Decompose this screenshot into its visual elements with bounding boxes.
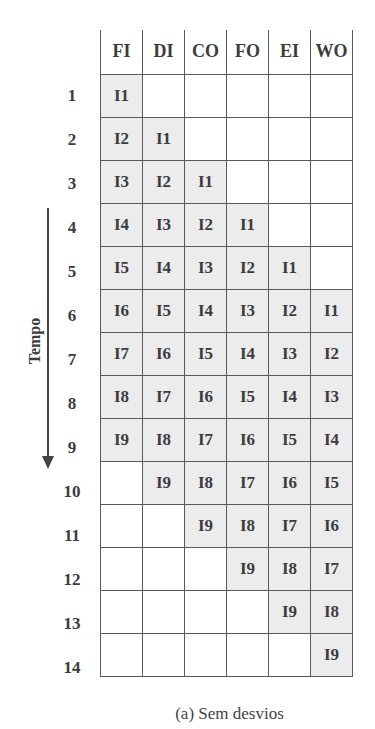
row-number: 10 — [56, 482, 88, 502]
pipeline-cell — [143, 633, 185, 676]
time-arrow-head-icon — [42, 456, 54, 469]
pipeline-cell: I3 — [269, 332, 311, 375]
pipeline-cell: I4 — [269, 375, 311, 418]
pipeline-cell: I5 — [311, 461, 353, 504]
pipeline-row: I9I8I7I6I5 — [101, 461, 353, 504]
pipeline-cell: I5 — [101, 246, 143, 289]
pipeline-cell: I1 — [101, 74, 143, 117]
pipeline-cell: I9 — [143, 461, 185, 504]
pipeline-cell: I5 — [185, 332, 227, 375]
pipeline-cell — [143, 504, 185, 547]
pipeline-cell — [185, 74, 227, 117]
pipeline-diagram-table: FI DI CO FO EI WO I1I2I1I3I2I1I4I3I2I1I5… — [100, 30, 353, 677]
row-number: 8 — [56, 394, 88, 414]
pipeline-cell — [101, 590, 143, 633]
pipeline-cell: I8 — [311, 590, 353, 633]
stage-header-wo: WO — [311, 30, 353, 74]
time-arrow-line — [47, 208, 49, 460]
pipeline-cell: I4 — [101, 203, 143, 246]
pipeline-cell: I7 — [143, 375, 185, 418]
pipeline-cell: I3 — [143, 203, 185, 246]
pipeline-cell: I2 — [143, 160, 185, 203]
pipeline-cell: I7 — [101, 332, 143, 375]
pipeline-cell: I9 — [227, 547, 269, 590]
stage-header-di: DI — [143, 30, 185, 74]
pipeline-cell — [185, 117, 227, 160]
pipeline-cell: I6 — [185, 375, 227, 418]
pipeline-cell — [227, 590, 269, 633]
pipeline-cell: I1 — [311, 289, 353, 332]
pipeline-cell — [101, 504, 143, 547]
pipeline-cell: I6 — [311, 504, 353, 547]
pipeline-cell — [269, 74, 311, 117]
pipeline-cell: I9 — [311, 633, 353, 676]
pipeline-row: I9I8I7I6 — [101, 504, 353, 547]
row-number: 13 — [56, 614, 88, 634]
pipeline-cell: I3 — [311, 375, 353, 418]
pipeline-row: I2I1 — [101, 117, 353, 160]
pipeline-cell: I6 — [269, 461, 311, 504]
stage-header-row: FI DI CO FO EI WO — [101, 30, 353, 74]
figure-caption: (a) Sem desvios — [100, 704, 359, 724]
pipeline-cell — [227, 633, 269, 676]
pipeline-cell: I8 — [143, 418, 185, 461]
pipeline-cell — [227, 160, 269, 203]
pipeline-cell: I7 — [269, 504, 311, 547]
pipeline-row: I7I6I5I4I3I2 — [101, 332, 353, 375]
row-number: 4 — [56, 218, 88, 238]
pipeline-cell — [185, 590, 227, 633]
pipeline-cell: I8 — [185, 461, 227, 504]
pipeline-cell: I8 — [269, 547, 311, 590]
pipeline-row: I9I8I7I6I5I4 — [101, 418, 353, 461]
pipeline-cell: I8 — [227, 504, 269, 547]
pipeline-cell: I9 — [269, 590, 311, 633]
pipeline-cell: I6 — [227, 418, 269, 461]
pipeline-cell: I5 — [143, 289, 185, 332]
pipeline-row: I6I5I4I3I2I1 — [101, 289, 353, 332]
pipeline-cell — [311, 203, 353, 246]
pipeline-cell: I3 — [185, 246, 227, 289]
pipeline-cell: I6 — [143, 332, 185, 375]
pipeline-cell: I2 — [185, 203, 227, 246]
pipeline-row: I9I8I7 — [101, 547, 353, 590]
pipeline-cell — [185, 547, 227, 590]
pipeline-cell: I1 — [269, 246, 311, 289]
pipeline-cell — [311, 74, 353, 117]
pipeline-cell: I4 — [227, 332, 269, 375]
pipeline-row: I3I2I1 — [101, 160, 353, 203]
pipeline-cell — [101, 547, 143, 590]
row-number: 6 — [56, 306, 88, 326]
time-axis-label: Tempo — [26, 314, 44, 368]
pipeline-cell: I7 — [311, 547, 353, 590]
pipeline-cell: I1 — [143, 117, 185, 160]
pipeline-cell — [143, 590, 185, 633]
pipeline-cell: I2 — [101, 117, 143, 160]
pipeline-body: I1I2I1I3I2I1I4I3I2I1I5I4I3I2I1I6I5I4I3I2… — [101, 74, 353, 676]
pipeline-cell: I9 — [185, 504, 227, 547]
pipeline-cell — [269, 203, 311, 246]
pipeline-cell — [269, 117, 311, 160]
pipeline-cell — [269, 160, 311, 203]
pipeline-cell: I3 — [227, 289, 269, 332]
pipeline-cell: I5 — [227, 375, 269, 418]
pipeline-row: I4I3I2I1 — [101, 203, 353, 246]
pipeline-cell: I2 — [269, 289, 311, 332]
row-number: 12 — [56, 570, 88, 590]
pipeline-cell: I2 — [311, 332, 353, 375]
pipeline-cell — [143, 547, 185, 590]
row-number: 11 — [56, 526, 88, 546]
pipeline-cell: I7 — [227, 461, 269, 504]
pipeline-cell — [311, 160, 353, 203]
pipeline-cell — [101, 633, 143, 676]
stage-header-ei: EI — [269, 30, 311, 74]
row-number: 5 — [56, 262, 88, 282]
pipeline-row: I9I8 — [101, 590, 353, 633]
pipeline-cell: I1 — [185, 160, 227, 203]
pipeline-cell: I7 — [185, 418, 227, 461]
stage-header-fi: FI — [101, 30, 143, 74]
pipeline-cell — [227, 74, 269, 117]
pipeline-row: I8I7I6I5I4I3 — [101, 375, 353, 418]
pipeline-cell: I3 — [101, 160, 143, 203]
row-number: 7 — [56, 350, 88, 370]
pipeline-row: I1 — [101, 74, 353, 117]
